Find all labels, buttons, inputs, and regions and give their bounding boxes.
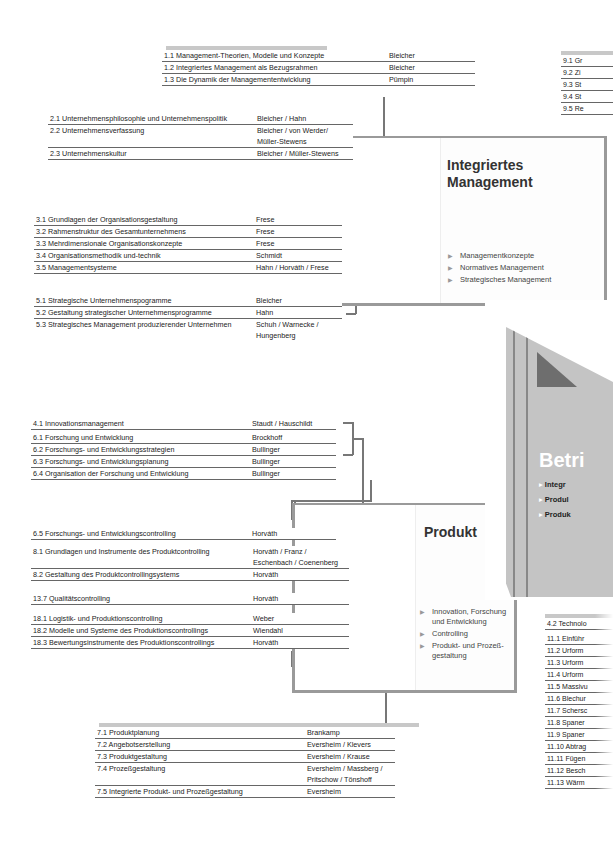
- topic-title: 8.2 Gestaltung des Produktcontrollingsys…: [31, 569, 249, 580]
- cover-bullet-text: Produk: [545, 510, 571, 519]
- topic-author: Bleicher / Müller-Stewens: [253, 148, 353, 159]
- topic-title: 1.2 Integriertes Management als Bezugsra…: [162, 62, 385, 73]
- topic-author: Hahn / Horváth / Frese: [252, 262, 342, 273]
- topic-title: 3.1 Grundlagen der Organisationsgestaltu…: [34, 214, 252, 225]
- side-list-chapter-9: 9.1 Gr 9.2 Zi 9.3 St 9.4 St 9.5 Re: [561, 51, 613, 115]
- topic-title: 7.1 Produktplanung: [95, 727, 303, 738]
- fade-edge: [595, 600, 613, 847]
- topic-author: Eversheim: [303, 786, 395, 797]
- topic-author: Staudt / Hauschildt: [248, 418, 336, 429]
- topic-author: Bullinger: [248, 468, 336, 479]
- topic-title: 8.1 Grundlagen und Instrumente des Produ…: [31, 546, 249, 568]
- topic-author: Frese: [252, 238, 342, 249]
- topic-title: 13.7 Qualitätscontrolling: [31, 593, 249, 604]
- topic-title: 5.2 Gestaltung strategischer Unternehmen…: [34, 307, 252, 318]
- topic-author: Bleicher / Hahn: [253, 113, 353, 124]
- topic-table-5: 5.1 Strategische UnternehmenspogrammeBle…: [34, 295, 342, 341]
- table-row: 7.5 Integrierte Produkt- und Prozeßgesta…: [95, 786, 395, 798]
- table-row: 1.1 Management-Theorien, Modelle und Kon…: [162, 50, 475, 62]
- topic-title: 18.1 Logistik- und Produktionscontrollin…: [31, 613, 249, 624]
- table-row: 6.2 Forschungs- und Entwicklungsstrategi…: [31, 444, 336, 456]
- connector-line: [346, 313, 356, 315]
- topic-table-7: 7.1 ProduktplanungBrankamp 7.2 Angebotse…: [95, 727, 395, 798]
- topic-author: Bleicher / von Werder/ Müller-Stewens: [253, 125, 353, 147]
- topic-title: 7.4 Prozeßgestaltung: [95, 763, 303, 785]
- table-row: 4.1 InnovationsmanagementStaudt / Hausch…: [31, 418, 336, 430]
- topic-title: 3.2 Rahmenstruktur des Gesamtunternehmen…: [34, 226, 252, 237]
- topic-title: 6.4 Organisation der Forschung und Entwi…: [31, 468, 248, 479]
- topic-table-13-7: 13.7 QualitätscontrollingHorváth: [31, 593, 349, 605]
- topic-author: Horváth / Franz / Eschenbach / Coenenber…: [249, 546, 349, 568]
- topic-author: Pümpin: [385, 74, 475, 85]
- topic-author: Bullinger: [248, 444, 336, 455]
- topic-author: Hahn: [252, 307, 342, 318]
- topic-title: 6.3 Forschungs- und Entwicklungsplanung: [31, 456, 248, 467]
- table-row: 5.2 Gestaltung strategischer Unternehmen…: [34, 307, 342, 319]
- topic-title: 3.3 Mehrdimensionale Organisationskonzep…: [34, 238, 252, 249]
- list-item: 9.4 St: [561, 91, 613, 103]
- table-row: 7.1 ProduktplanungBrankamp: [95, 727, 395, 739]
- bullet-item: Controlling: [420, 629, 506, 639]
- cover-spine-line: [513, 327, 515, 597]
- topic-title: 7.3 Produktgestaltung: [95, 751, 303, 762]
- table-row: 13.7 QualitätscontrollingHorváth: [31, 593, 349, 605]
- topic-title: 3.5 Managementsysteme: [34, 262, 252, 273]
- topic-author: Bleicher: [385, 50, 475, 61]
- topic-title: 7.2 Angebotserstellung: [95, 739, 303, 750]
- topic-author: Horváth: [249, 637, 349, 648]
- topic-author: Schmidt: [252, 250, 342, 261]
- table-row: 7.2 AngebotserstellungEversheim / Klever…: [95, 739, 395, 751]
- topic-author: Eversheim / Klevers: [303, 739, 395, 750]
- table-row: 5.3 Strategisches Management produzieren…: [34, 319, 342, 341]
- topic-title: 3.4 Organisationsmethodik und-technik: [34, 250, 252, 261]
- book-title-produkt: Produkt: [424, 524, 477, 541]
- list-item: 9.1 Gr: [561, 55, 613, 67]
- topic-table-3: 3.1 Grundlagen der Organisationsgestaltu…: [34, 214, 342, 274]
- topic-table-4: 4.1 InnovationsmanagementStaudt / Hausch…: [31, 418, 336, 430]
- topic-author: Schuh / Warnecke / Hungenberg: [252, 319, 342, 341]
- topic-title: 2.3 Unternehmenskultur: [48, 148, 253, 159]
- bullet-list-produkt: Innovation, Forschung und Entwicklung Co…: [420, 607, 506, 663]
- table-row: 18.1 Logistik- und Produktionscontrollin…: [31, 613, 349, 625]
- table-row: 3.4 Organisationsmethodik und-technikSch…: [34, 250, 342, 262]
- table-row: 3.3 Mehrdimensionale Organisationskonzep…: [34, 238, 342, 250]
- table-row: 6.1 Forschung und EntwicklungBrockhoff: [31, 432, 336, 444]
- table-row: 7.3 ProduktgestaltungEversheim / Krause: [95, 751, 395, 763]
- table-row: 5.1 Strategische UnternehmenspogrammeBle…: [34, 295, 342, 307]
- topic-author: Wiendahl: [249, 625, 349, 636]
- bullet-item: Strategisches Management: [448, 275, 551, 285]
- cover-spine-line: [526, 327, 528, 597]
- topic-title: 18.3 Bewertungsinstrumente des Produktio…: [31, 637, 249, 648]
- topic-author: Brockhoff: [248, 432, 336, 443]
- topic-author: Bleicher: [385, 62, 475, 73]
- bullet-list-integriert: Managementkonzepte Normatives Management…: [448, 251, 551, 287]
- topic-author: Bullinger: [248, 456, 336, 467]
- table-row: 1.2 Integriertes Management als Bezugsra…: [162, 62, 475, 74]
- connector-line: [343, 454, 353, 456]
- topic-table-6: 6.1 Forschung und EntwicklungBrockhoff 6…: [31, 432, 336, 480]
- topic-table-1: 1.1 Management-Theorien, Modelle und Kon…: [162, 50, 322, 86]
- topic-title: 6.1 Forschung und Entwicklung: [31, 432, 248, 443]
- list-item: 9.2 Zi: [561, 67, 613, 79]
- cover-bullets: ▸ Integr ▸ Produl ▸ Produk: [539, 477, 571, 522]
- topic-title: 7.5 Integrierte Produkt- und Prozeßgesta…: [95, 786, 303, 797]
- table-row: 18.3 Bewertungsinstrumente des Produktio…: [31, 637, 349, 649]
- table-row: 3.2 Rahmenstruktur des Gesamtunternehmen…: [34, 226, 342, 238]
- topic-title: 2.1 Unternehmensphilosophie und Unterneh…: [48, 113, 253, 124]
- table-row: 8.2 Gestaltung des Produktcontrollingsys…: [31, 569, 349, 581]
- topic-author: Weber: [249, 613, 349, 624]
- list-item: 9.3 St: [561, 79, 613, 91]
- table-row: 2.2 UnternehmensverfassungBleicher / von…: [48, 125, 353, 148]
- connector-line: [370, 480, 372, 502]
- topic-author: Horváth: [249, 593, 349, 604]
- table-row: 6.4 Organisation der Forschung und Entwi…: [31, 468, 336, 480]
- topic-author: Bleicher: [252, 295, 342, 306]
- topic-author: Frese: [252, 226, 342, 237]
- topic-table-8: 8.1 Grundlagen und Instrumente des Produ…: [31, 546, 349, 581]
- table-row: 3.1 Grundlagen der Organisationsgestaltu…: [34, 214, 342, 226]
- topic-table-18: 18.1 Logistik- und Produktionscontrollin…: [31, 613, 349, 649]
- table-row: 18.2 Modelle und Systeme des Produktions…: [31, 625, 349, 637]
- cover-bullet: ▸ Produl: [539, 492, 571, 507]
- table-row: 3.5 ManagementsystemeHahn / Horváth / Fr…: [34, 262, 342, 274]
- topic-title: 6.2 Forschungs- und Entwicklungsstrategi…: [31, 444, 248, 455]
